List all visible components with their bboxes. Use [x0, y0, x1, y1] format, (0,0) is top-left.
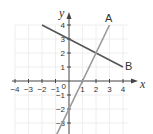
x-axis	[12, 79, 138, 84]
grid	[15, 25, 128, 134]
x-tick-label: 4	[121, 85, 126, 94]
x-tick-labels: −4 −3 −2 −1 0 1 2 3 4	[10, 82, 125, 94]
line-a-label: A	[105, 12, 113, 24]
y-axis-arrow-icon	[67, 12, 72, 19]
y-axis-label: y	[58, 6, 65, 20]
x-tick-label: −2	[37, 85, 47, 94]
x-tick-label: 2	[94, 85, 99, 94]
x-tick-label: −3	[24, 85, 34, 94]
x-tick-label: −4	[10, 85, 20, 94]
y-tick-label: −1	[56, 91, 66, 100]
coordinate-graph: −4 −3 −2 −1 0 1 2 3 4 4 3 2 1 −1 −2 −3 x…	[0, 0, 153, 134]
x-tick-label: 1	[80, 85, 85, 94]
y-tick-label: 1	[61, 63, 66, 72]
y-tick-label: −2	[56, 105, 66, 114]
y-axis	[67, 12, 72, 134]
y-tick-label: 4	[61, 21, 66, 30]
x-tick-label: 3	[107, 85, 112, 94]
origin-label: 0	[62, 82, 67, 91]
x-axis-arrow-icon	[131, 79, 138, 84]
y-tick-label: 2	[61, 49, 66, 58]
line-b-label: B	[125, 60, 132, 72]
x-axis-label: x	[139, 77, 146, 91]
